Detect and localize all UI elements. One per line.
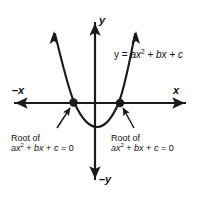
right-root-annotation-line2: ax2 + bx + c = 0 [111,143,174,153]
negative-y-axis-label: –y [99,173,111,185]
right-ann-plus: + [144,143,154,153]
positive-y-axis-label: y [99,14,105,26]
equation-prefix: y = [114,49,130,60]
equation-constant-c: c [178,49,183,60]
curve-equation-label: y = ax2 + bx + c [114,49,183,60]
left-ann-plus: + [44,143,54,153]
graph-canvas [0,0,199,197]
right-ann-mid: + [124,143,134,153]
left-ann-mid: + [24,143,34,153]
positive-x-axis-label: x [173,84,179,96]
negative-x-axis-label: –x [12,84,24,96]
equation-plus-one: + [145,49,156,60]
equation-plus-two: + [167,49,178,60]
left-root-annotation-line2: ax2 + bx + c = 0 [11,143,74,153]
right-ann-equals-zero: = 0 [158,143,173,153]
left-root-point [69,98,77,106]
parabola-right-arrowhead [132,31,141,44]
right-annotation-pointer-arrow [123,108,134,128]
left-root-annotation: Root of ax2 + bx + c = 0 [11,133,74,153]
quadratic-graph-figure: –x x y –y y = ax2 + bx + c Root of ax2 +… [0,0,199,197]
left-annotation-pointer-arrow [57,108,70,128]
right-root-point [116,99,124,107]
right-root-annotation: Root of ax2 + bx + c = 0 [111,133,174,153]
left-ann-equals-zero: = 0 [58,143,73,153]
